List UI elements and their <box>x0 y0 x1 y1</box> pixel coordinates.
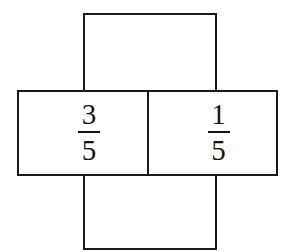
fraction-cross-diagram: 3 5 1 5 <box>0 0 288 252</box>
fraction-right: 1 5 <box>149 92 276 174</box>
diagram-cell-top[interactable] <box>83 13 217 92</box>
diagram-cell-right[interactable]: 1 5 <box>147 90 278 176</box>
fraction-denominator: 5 <box>209 135 228 165</box>
fraction-bar-icon <box>208 131 230 133</box>
fraction-numerator: 3 <box>80 100 99 130</box>
fraction-numerator: 1 <box>209 100 228 130</box>
fraction-one-fifth: 1 5 <box>208 100 230 165</box>
diagram-cell-bottom[interactable] <box>83 174 217 250</box>
diagram-cell-left[interactable]: 3 5 <box>17 90 149 176</box>
fraction-three-fifths: 3 5 <box>78 100 100 165</box>
fraction-bar-icon <box>78 131 100 133</box>
fraction-denominator: 5 <box>80 135 99 165</box>
fraction-left: 3 5 <box>19 92 147 174</box>
